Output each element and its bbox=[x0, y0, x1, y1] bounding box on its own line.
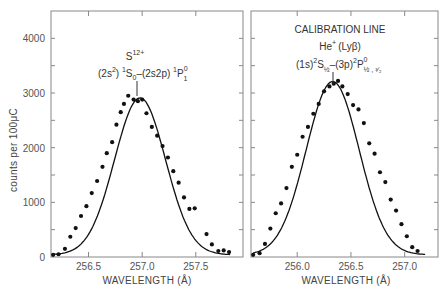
y-tick-label: 4000 bbox=[23, 33, 46, 44]
data-point bbox=[263, 242, 267, 246]
data-point bbox=[140, 97, 144, 101]
data-point bbox=[79, 214, 83, 218]
data-point bbox=[394, 208, 398, 212]
left-transition-label: (2s2) 1S0–(2s2p) 1P01 bbox=[98, 65, 188, 82]
data-point bbox=[295, 153, 299, 157]
right-fit-curve bbox=[253, 82, 425, 255]
data-point bbox=[84, 204, 88, 208]
y-tick-label: 2000 bbox=[23, 143, 46, 154]
x-tick-label: 256.5 bbox=[338, 261, 363, 272]
right-title-label: CALIBRATION LINE bbox=[295, 24, 386, 35]
data-point bbox=[136, 99, 140, 103]
data-point bbox=[405, 234, 409, 238]
data-point bbox=[410, 245, 414, 249]
data-point bbox=[300, 135, 304, 139]
data-point bbox=[119, 110, 123, 114]
data-point bbox=[90, 191, 94, 195]
x-tick-label: 257.0 bbox=[392, 261, 417, 272]
data-point bbox=[346, 92, 350, 96]
left-fit-curve bbox=[53, 98, 230, 255]
data-point bbox=[95, 179, 99, 183]
spectral-line-figure: 256.5257.0257.501000200030004000 256.025… bbox=[0, 0, 445, 289]
data-point bbox=[372, 152, 376, 156]
x-tick-label: 256.0 bbox=[285, 261, 310, 272]
data-point bbox=[389, 198, 393, 202]
left-x-axis-title: WAVELENGTH (Å) bbox=[102, 274, 191, 286]
data-point bbox=[367, 141, 371, 145]
data-point bbox=[110, 140, 114, 144]
data-point bbox=[182, 195, 186, 199]
data-point bbox=[378, 170, 382, 174]
data-point bbox=[399, 222, 403, 226]
x-tick-label: 257.0 bbox=[130, 261, 155, 272]
data-point bbox=[166, 155, 170, 159]
data-point bbox=[150, 125, 154, 129]
data-point bbox=[362, 121, 366, 125]
y-tick-label: 0 bbox=[39, 252, 45, 263]
y-axis-title: counts per 100μC bbox=[8, 108, 19, 192]
data-point bbox=[177, 181, 181, 185]
x-tick-label: 256.5 bbox=[76, 261, 101, 272]
data-point bbox=[74, 226, 78, 230]
data-point bbox=[340, 84, 344, 88]
data-point bbox=[332, 82, 336, 86]
data-point bbox=[274, 211, 278, 215]
data-point bbox=[160, 144, 164, 148]
data-point bbox=[68, 235, 72, 239]
data-point bbox=[63, 247, 67, 251]
y-tick-label: 3000 bbox=[23, 88, 46, 99]
data-point bbox=[257, 251, 261, 255]
data-point bbox=[336, 79, 340, 83]
data-point bbox=[279, 201, 283, 205]
data-point bbox=[317, 102, 321, 106]
data-point bbox=[383, 180, 387, 184]
data-point bbox=[51, 253, 55, 257]
data-point bbox=[193, 206, 197, 210]
data-point bbox=[222, 248, 226, 252]
data-point bbox=[251, 253, 255, 257]
data-point bbox=[187, 207, 191, 211]
data-point bbox=[322, 89, 326, 93]
data-point bbox=[114, 123, 118, 127]
right-transition-label: (1s)2S½–(3p)2P0½ , ³⁄₂ bbox=[296, 56, 382, 73]
left-plot-frame bbox=[51, 11, 243, 257]
data-point bbox=[100, 165, 104, 169]
data-point bbox=[155, 134, 159, 138]
right-x-axis-title: WAVELENGTH (Å) bbox=[301, 274, 390, 286]
right-ion-label: He+(Lyβ) bbox=[319, 39, 361, 52]
data-point bbox=[356, 107, 360, 111]
x-tick-label: 257.5 bbox=[183, 261, 208, 272]
left-ion-label: S12+ bbox=[126, 49, 145, 62]
data-point bbox=[171, 169, 175, 173]
data-point bbox=[351, 103, 355, 107]
data-point bbox=[126, 94, 130, 98]
data-point bbox=[105, 151, 109, 155]
data-point bbox=[306, 125, 310, 129]
data-point bbox=[227, 250, 231, 254]
data-point bbox=[122, 102, 126, 106]
data-point bbox=[131, 97, 135, 101]
data-point bbox=[311, 112, 315, 116]
data-point bbox=[290, 165, 294, 169]
data-point bbox=[284, 186, 288, 190]
data-point bbox=[216, 249, 220, 253]
data-point bbox=[204, 232, 208, 236]
y-tick-label: 1000 bbox=[23, 197, 46, 208]
data-point bbox=[415, 249, 419, 253]
data-point bbox=[327, 84, 331, 88]
data-point bbox=[56, 252, 60, 256]
data-point bbox=[144, 111, 148, 115]
data-point bbox=[268, 226, 272, 230]
data-point bbox=[210, 242, 214, 246]
